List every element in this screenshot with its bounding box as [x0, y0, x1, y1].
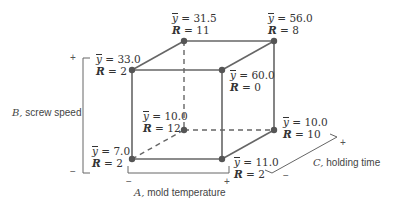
axis-c-low-sign: −	[283, 170, 289, 181]
axis-a-low-sign: −	[126, 176, 132, 187]
label-front-top-left: y = 33.0 R = 2	[96, 53, 141, 77]
label-back-bottom-right: y = 10.0 R = 10	[283, 116, 328, 140]
axis-b-low-sign: −	[70, 166, 76, 177]
point-back-bottom-right	[271, 127, 277, 133]
axis-b-label: B, screw speed	[12, 107, 81, 118]
label-back-top-left: y = 31.5 R = 11	[172, 12, 217, 36]
axis-c-label: C, holding time	[313, 157, 380, 168]
axis-b-bracket	[83, 58, 90, 173]
label-back-bottom-left: y = 10.0 R = 12	[143, 110, 188, 134]
edge-top-right-depth	[222, 41, 274, 70]
hidden-edge-bottom-left-depth	[132, 130, 184, 159]
label-front-top-right: y = 60.0 R = 0	[230, 69, 275, 93]
label-front-bottom-right: y = 11.0 R = 2	[234, 156, 279, 180]
point-back-top-left	[181, 38, 187, 44]
axis-b-high-sign: +	[70, 52, 76, 63]
label-back-top-right: y = 56.0 R = 8	[268, 12, 313, 36]
axis-a-bracket	[128, 166, 229, 173]
axis-a-high-sign: +	[224, 176, 230, 187]
point-front-top-right	[219, 67, 225, 73]
point-back-top-right	[271, 38, 277, 44]
edge-bottom-right-depth	[222, 130, 274, 159]
axis-c-high-sign: +	[340, 137, 346, 148]
axis-a-label: A, mold temperature	[134, 187, 226, 198]
point-front-bottom-right	[219, 156, 225, 162]
label-front-bottom-left: y = 7.0 R = 2	[92, 145, 130, 169]
